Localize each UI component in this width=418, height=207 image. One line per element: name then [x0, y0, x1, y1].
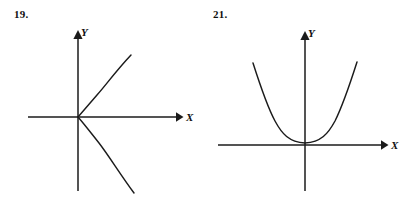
figure-21-x-axis-arrow-icon — [381, 140, 389, 150]
figure-21: 21. X Y — [209, 0, 418, 207]
figure-21-x-axis-label: X — [390, 139, 399, 151]
figure-19-y-axis-label: Y — [81, 26, 89, 38]
figure-19: 19. X Y — [0, 0, 209, 207]
figure-21-plot: X Y — [209, 0, 418, 207]
figure-19-x-axis-arrow-icon — [176, 112, 184, 122]
figure-19-curve-lower-branch — [78, 117, 134, 193]
figure-21-y-axis-label: Y — [308, 27, 316, 39]
figure-19-x-axis-label: X — [185, 111, 194, 123]
figure-page: 19. X Y 21. — [0, 0, 418, 207]
figure-19-plot: X Y — [0, 0, 209, 207]
figure-19-curve-upper-branch — [78, 55, 131, 117]
